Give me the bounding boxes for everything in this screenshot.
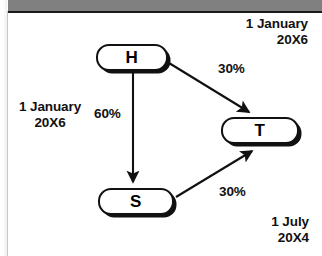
page-left-edge [0, 0, 7, 256]
header-bar [8, 0, 322, 13]
node-s[interactable]: S [98, 188, 174, 215]
annotation-top-right-date: 1 January 20X6 [246, 16, 308, 48]
annotation-left-date: 1 January 20X6 [8, 99, 92, 131]
node-h[interactable]: H [96, 44, 168, 71]
annotation-bottom-right-date: 1 July 20X4 [271, 214, 309, 246]
edge-label-h-to-s: 60% [94, 106, 121, 122]
node-t[interactable]: T [221, 117, 299, 144]
edge-label-h-to-t: 30% [218, 61, 245, 77]
edge-label-s-to-t: 30% [219, 184, 246, 200]
diagram-page: H T S 30% 60% 30% 1 January 20X6 1 Janua… [0, 0, 322, 256]
